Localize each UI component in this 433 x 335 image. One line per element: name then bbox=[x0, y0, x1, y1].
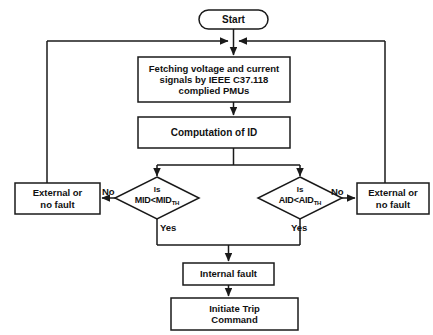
flowchart-diagram: Start Fetching voltage and current signa… bbox=[0, 0, 433, 335]
compute-shape bbox=[138, 117, 290, 148]
decision-mid-shape bbox=[115, 177, 199, 219]
trip-shape bbox=[171, 298, 298, 330]
internal-fault-shape bbox=[183, 263, 274, 285]
external-left-shape bbox=[15, 183, 100, 214]
fetch-shape bbox=[138, 57, 290, 102]
decision-aid-shape bbox=[258, 177, 342, 219]
flowchart-canvas bbox=[0, 0, 433, 335]
external-right-shape bbox=[357, 183, 429, 214]
start-shape bbox=[199, 10, 268, 29]
